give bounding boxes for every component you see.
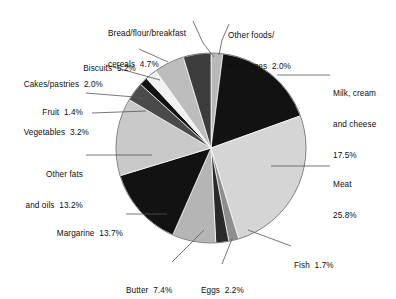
slice-label-eggs-line1: Eggs 2.2% bbox=[201, 286, 244, 296]
slice-label-other-foods-line2: beverages 2.0% bbox=[228, 62, 291, 72]
slice-label-butter: Butter 7.4% bbox=[126, 265, 172, 299]
leader-line-eggs bbox=[222, 239, 232, 264]
slice-label-margarine: Margarine 13.7% bbox=[0, 208, 123, 260]
slice-label-meat-line2: 25.8% bbox=[333, 211, 357, 221]
slice-label-milk-line2: and cheese bbox=[333, 120, 376, 130]
slice-label-vegetables-line1: Vegetables 3.2% bbox=[0, 128, 89, 138]
slice-label-other-foods: Other foods/ beverages 2.0% bbox=[228, 10, 291, 93]
leader-line-fish bbox=[248, 230, 291, 246]
slice-label-eggs: Eggs 2.2% bbox=[201, 265, 244, 299]
slice-label-meat-line1: Meat bbox=[333, 180, 357, 190]
slice-label-meat: Meat 25.8% bbox=[333, 159, 357, 242]
slice-label-margarine-line1: Margarine 13.7% bbox=[0, 229, 123, 239]
slice-label-other-foods-line1: Other foods/ bbox=[228, 31, 291, 41]
slice-label-other-fats-line1: Other fats bbox=[0, 170, 83, 180]
slice-label-milk-line1: Milk, cream bbox=[333, 89, 376, 99]
slice-label-fish: Fish 1.7% bbox=[294, 240, 334, 292]
leader-line-bread bbox=[193, 21, 214, 57]
slice-label-butter-line1: Butter 7.4% bbox=[126, 286, 172, 296]
slice-label-fish-line1: Fish 1.7% bbox=[294, 261, 334, 271]
slice-label-bread-line1: Bread/flour/breakfast bbox=[108, 29, 186, 39]
